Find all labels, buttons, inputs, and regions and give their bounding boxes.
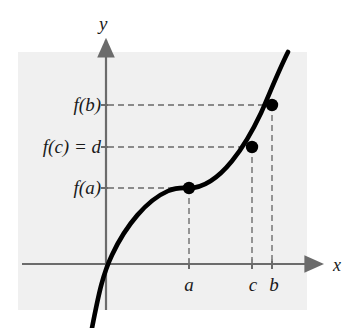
x-axis-label: x bbox=[333, 256, 341, 274]
point-b-dot bbox=[266, 99, 278, 111]
y-axis-label: y bbox=[99, 14, 107, 33]
point-c-dot bbox=[246, 141, 258, 153]
y-tick-label-fb: f(b) bbox=[1, 95, 101, 114]
point-a-dot bbox=[183, 182, 195, 194]
y-tick-label-fa: f(a) bbox=[1, 178, 101, 197]
figure-canvas: y x f(b) f(c) = d f(a) a c b bbox=[0, 0, 361, 328]
x-tick-label-a: a bbox=[174, 275, 204, 294]
x-tick-label-b: b bbox=[259, 275, 289, 294]
y-tick-label-fc: f(c) = d bbox=[1, 137, 101, 156]
